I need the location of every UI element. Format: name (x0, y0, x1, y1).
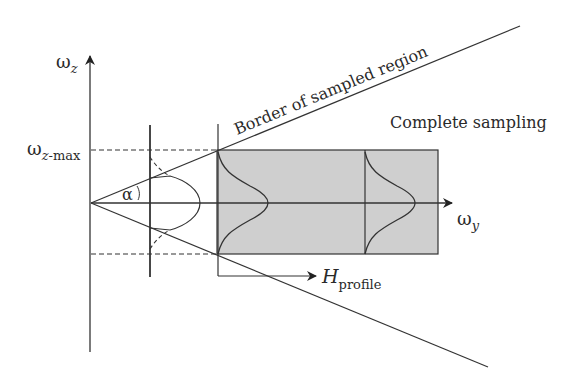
incomplete-profile-dashed-bottom (150, 230, 170, 249)
complete-sampling-region (217, 150, 438, 254)
omega-zmax-label: ωz-max (27, 138, 81, 163)
hprofile-label: Hprofile (321, 265, 382, 292)
complete-sampling-label: Complete sampling (390, 113, 547, 132)
omega-z-label: ωz (56, 51, 78, 76)
alpha-arc (137, 186, 139, 200)
sampling-diagram: ωz ωz-max α ωy Border of sampled region … (0, 0, 579, 391)
omega-y-label: ωy (457, 208, 480, 233)
alpha-label: α (122, 185, 133, 204)
incomplete-profile-dashed-top (150, 157, 170, 176)
